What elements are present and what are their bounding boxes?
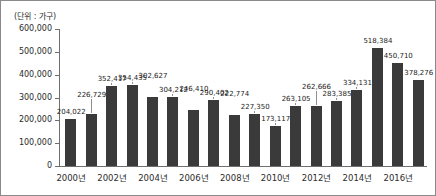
bar[interactable] <box>311 106 322 166</box>
unit-caption: (단위 : 가구) <box>14 10 56 21</box>
bar-value-label: 378,276 <box>396 69 436 77</box>
y-axis-tick-label: 600,000 <box>2 24 52 33</box>
bar[interactable] <box>127 85 138 166</box>
y-axis-tick-label: 400,000 <box>2 70 52 79</box>
bar-group: 378,276 <box>409 28 429 166</box>
x-axis-tick-label: 2000년 <box>49 171 93 183</box>
bar[interactable] <box>270 126 281 166</box>
bar[interactable] <box>208 100 219 166</box>
bar-group: 227,350 <box>245 28 265 166</box>
bar-group: 304,212 <box>163 28 183 166</box>
value-leader-line <box>336 98 337 100</box>
bar[interactable] <box>86 114 97 166</box>
value-leader-line <box>111 83 112 85</box>
bar-group: 518,384 <box>368 28 388 166</box>
value-leader-line <box>91 99 92 113</box>
value-leader-line <box>275 123 276 125</box>
bar-group: 283,385 <box>327 28 347 166</box>
bar-group: 354,435 <box>123 28 143 166</box>
x-axis-tick-label: 2004년 <box>131 171 175 183</box>
x-axis-tick-label: 2002년 <box>90 171 134 183</box>
bar[interactable] <box>372 48 383 166</box>
bar[interactable] <box>392 63 403 166</box>
bar[interactable] <box>106 86 117 166</box>
value-leader-line <box>254 111 255 113</box>
bar[interactable] <box>331 101 342 166</box>
bar[interactable] <box>413 80 424 166</box>
bar-group: 334,131 <box>347 28 367 166</box>
x-axis-tick-label: 2006년 <box>172 171 216 183</box>
bars-layer: 204,022226,729352,417354,435302,627304,2… <box>59 29 427 167</box>
y-axis-tick-label: 100,000 <box>2 138 52 147</box>
x-axis-tick-label: 2014년 <box>335 171 379 183</box>
bar[interactable] <box>351 90 362 166</box>
y-axis-tick-label: 300,000 <box>2 93 52 102</box>
y-axis-tick-label: 0 <box>2 161 52 170</box>
x-axis-tick-label: 2012년 <box>295 171 339 183</box>
bar[interactable] <box>167 97 178 166</box>
bar-group: 222,774 <box>225 28 245 166</box>
bar[interactable] <box>65 119 76 166</box>
bar[interactable] <box>290 106 301 166</box>
x-axis-ticks: 2000년2002년2004년2006년2008년2010년2012년2014년… <box>59 171 427 187</box>
value-leader-line <box>172 94 173 96</box>
plot-area: 600,000500,000400,000300,000200,000100,0… <box>59 29 427 167</box>
x-axis-tick-label: 2016년 <box>376 171 420 183</box>
bar-group: 226,729 <box>82 28 102 166</box>
bar[interactable] <box>147 97 158 166</box>
bar[interactable] <box>229 115 240 166</box>
y-axis-tick-label: 500,000 <box>2 47 52 56</box>
x-axis-tick-label: 2010년 <box>254 171 298 183</box>
bar-chart: (단위 : 가구) 600,000500,000400,000300,00020… <box>0 0 436 196</box>
y-axis-tick-label: 200,000 <box>2 115 52 124</box>
value-leader-line <box>356 87 357 89</box>
bar-group: 352,417 <box>102 28 122 166</box>
bar-group: 263,105 <box>286 28 306 166</box>
value-leader-line <box>295 103 296 105</box>
bar[interactable] <box>188 110 199 166</box>
x-axis-tick-label: 2008년 <box>213 171 257 183</box>
value-leader-line <box>132 82 133 84</box>
bar-group: 450,710 <box>388 28 408 166</box>
bar-group: 246,410 <box>184 28 204 166</box>
bar-group: 302,627 <box>143 28 163 166</box>
